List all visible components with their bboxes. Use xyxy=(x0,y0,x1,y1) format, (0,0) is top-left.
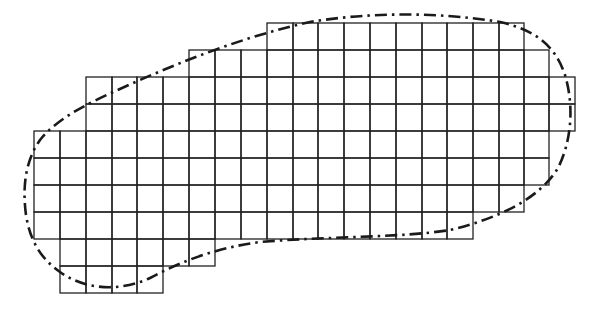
grid-cell xyxy=(112,239,137,266)
grid-cell xyxy=(447,77,473,104)
grid-cell xyxy=(137,104,163,131)
grid-cell xyxy=(241,50,267,77)
grid-cell xyxy=(112,104,137,131)
grid-cell xyxy=(267,50,293,77)
grid-cell xyxy=(86,131,112,158)
grid-cell xyxy=(318,50,344,77)
grid-cell xyxy=(112,131,137,158)
grid-cell xyxy=(318,212,344,239)
grid-cell xyxy=(137,131,163,158)
grid-cell xyxy=(137,77,163,104)
grid-cell xyxy=(499,131,524,158)
grid-cell xyxy=(241,77,267,104)
grid-cell xyxy=(318,185,344,212)
grid-cell xyxy=(396,185,422,212)
grid-cell xyxy=(163,104,189,131)
grid-cell xyxy=(60,185,86,212)
grid-cell xyxy=(422,104,447,131)
grid-cell xyxy=(163,131,189,158)
grid-cell xyxy=(163,77,189,104)
grid-cell xyxy=(86,104,112,131)
grid-cell xyxy=(241,131,267,158)
grid-cell xyxy=(447,50,473,77)
grid-cell xyxy=(112,266,137,293)
grid-cell xyxy=(189,104,215,131)
grid-cell xyxy=(344,185,370,212)
grid-cell xyxy=(267,185,293,212)
grid-cell xyxy=(370,50,396,77)
grid-cell xyxy=(293,50,318,77)
grid-cell xyxy=(267,131,293,158)
grid-cell xyxy=(344,158,370,185)
grid-cell xyxy=(473,23,499,50)
grid-cell xyxy=(137,158,163,185)
grid-cell xyxy=(524,50,549,77)
grid-cell xyxy=(215,131,241,158)
grid-cell xyxy=(189,77,215,104)
grid-cell xyxy=(137,212,163,239)
cell-grid xyxy=(34,23,575,293)
grid-cell xyxy=(396,158,422,185)
grid-cell xyxy=(189,239,215,266)
grid-cell xyxy=(422,158,447,185)
grid-cell xyxy=(112,77,137,104)
grid-cell xyxy=(86,185,112,212)
grid-cell xyxy=(499,77,524,104)
grid-cell xyxy=(215,50,241,77)
grid-cell xyxy=(60,158,86,185)
grid-cell xyxy=(189,212,215,239)
grid-cell xyxy=(34,212,60,239)
grid-cell xyxy=(318,158,344,185)
grid-cell xyxy=(344,104,370,131)
grid-cell xyxy=(293,185,318,212)
grid-cell xyxy=(473,50,499,77)
grid-cell xyxy=(241,104,267,131)
grid-cell xyxy=(370,131,396,158)
grid-cell xyxy=(293,212,318,239)
grid-cell xyxy=(499,50,524,77)
grid-cell xyxy=(241,212,267,239)
grid-cell xyxy=(293,23,318,50)
grid-cell xyxy=(137,266,163,293)
grid-cell xyxy=(370,77,396,104)
grid-cell xyxy=(396,77,422,104)
grid-cell xyxy=(215,212,241,239)
grid-cell xyxy=(112,158,137,185)
grid-cell xyxy=(422,77,447,104)
grid-cell xyxy=(293,131,318,158)
grid-cell xyxy=(112,212,137,239)
grid-cell xyxy=(473,131,499,158)
grid-cell xyxy=(86,239,112,266)
grid-cell xyxy=(34,131,60,158)
grid-cell xyxy=(241,185,267,212)
grid-cell xyxy=(422,23,447,50)
grid-cell xyxy=(86,212,112,239)
grid-cell xyxy=(318,23,344,50)
grid-cell xyxy=(344,50,370,77)
grid-cell xyxy=(344,131,370,158)
grid-cell xyxy=(473,185,499,212)
grid-cell xyxy=(293,77,318,104)
grid-cell xyxy=(112,185,137,212)
grid-cell xyxy=(189,131,215,158)
grid-cell xyxy=(499,158,524,185)
grid-cell xyxy=(524,131,549,158)
grid-cell xyxy=(293,158,318,185)
grid-cell xyxy=(60,131,86,158)
grid-cell xyxy=(473,104,499,131)
grid-cell xyxy=(524,104,549,131)
grid-cell xyxy=(422,131,447,158)
grid-cell xyxy=(267,77,293,104)
grid-cell xyxy=(447,131,473,158)
grid-cell xyxy=(34,158,60,185)
grid-cell xyxy=(215,104,241,131)
grid-cell xyxy=(163,158,189,185)
grid-cell xyxy=(370,23,396,50)
grid-cell xyxy=(215,158,241,185)
grid-cell xyxy=(163,185,189,212)
grid-cell xyxy=(370,158,396,185)
grid-cell xyxy=(137,239,163,266)
grid-cell xyxy=(370,185,396,212)
grid-cell xyxy=(189,158,215,185)
grid-cell xyxy=(267,212,293,239)
